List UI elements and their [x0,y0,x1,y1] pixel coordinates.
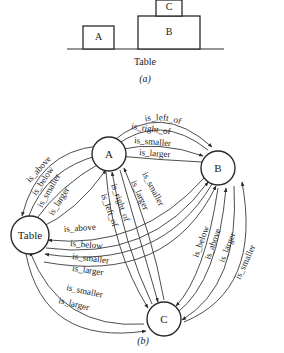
scene-graph-figure: A B C Table (a) [0,0,284,353]
block-a: A [83,26,114,49]
block-b-label: B [166,26,173,37]
node-b-label: B [214,162,221,174]
node-a-label: A [105,148,113,160]
block-b: B [138,16,200,49]
node-table-label: Table [18,229,42,241]
blocks-scene: A B C Table (a) [0,0,224,85]
block-c: C [156,0,182,16]
node-c-label: C [160,313,167,325]
edge-label: is_above [63,222,96,234]
table-label: Table [134,56,157,67]
edge-label: is_larger [139,147,171,159]
edge-labels: is_left_of is_right_of is_smaller is_lar… [24,112,284,312]
edge-label: is_larger [72,263,104,277]
edge-label: is_below [70,238,104,251]
edge-label: is_smaller [66,282,104,299]
node-a: A [92,137,126,171]
caption-b: (b) [137,335,149,347]
node-table: Table [11,216,49,254]
edge-label: is_smaller [233,243,258,281]
node-b: B [201,151,235,185]
block-c-label: C [166,1,173,12]
edge-label: is_larger [58,295,91,312]
block-a-label: A [95,31,103,42]
node-c: C [147,302,181,336]
caption-a: (a) [139,73,151,85]
